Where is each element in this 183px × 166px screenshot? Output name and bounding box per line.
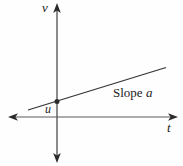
graph-canvas (0, 0, 183, 166)
intercept-label-u: u (45, 103, 51, 115)
intercept-dot-marker (55, 99, 60, 104)
horizontal-axis (8, 113, 178, 121)
vertical-axis (53, 3, 61, 163)
horizontal-axis-label: t (167, 121, 171, 134)
slope-annotation-symbol: a (146, 85, 153, 100)
velocity-time-graph-figure: v t u Slope a (0, 0, 183, 166)
slope-annotation-prefix: Slope (113, 85, 143, 100)
slope-annotation: Slope a (113, 86, 152, 99)
vertical-axis-label: v (42, 1, 48, 14)
